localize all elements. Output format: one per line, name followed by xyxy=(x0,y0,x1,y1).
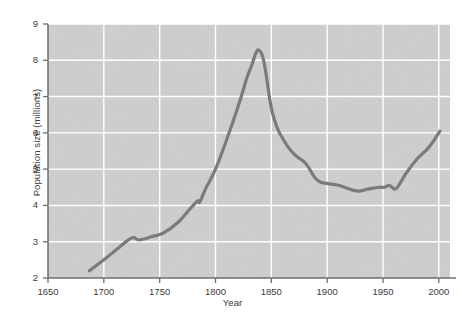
x-tick-label: 1650 xyxy=(28,286,68,297)
y-tick-label: 7 xyxy=(14,91,38,102)
x-axis-label: Year xyxy=(0,297,465,308)
x-tick-label: 2000 xyxy=(419,286,459,297)
x-tick-label: 1950 xyxy=(363,286,403,297)
y-tick-label: 5 xyxy=(14,163,38,174)
x-tick-label: 1750 xyxy=(140,286,180,297)
y-tick-label: 9 xyxy=(14,18,38,29)
y-tick-label: 6 xyxy=(14,127,38,138)
y-tick-label: 2 xyxy=(14,272,38,283)
plot-background xyxy=(48,24,451,279)
y-tick-label: 4 xyxy=(14,199,38,210)
chart-canvas xyxy=(0,0,465,319)
x-tick-label: 1700 xyxy=(84,286,124,297)
y-tick-label: 8 xyxy=(14,54,38,65)
x-tick-label: 1900 xyxy=(307,286,347,297)
x-tick-label: 1800 xyxy=(196,286,236,297)
population-line-chart: Population size (millions) Year 23456789… xyxy=(0,0,465,319)
x-tick-label: 1850 xyxy=(251,286,291,297)
y-tick-label: 3 xyxy=(14,236,38,247)
